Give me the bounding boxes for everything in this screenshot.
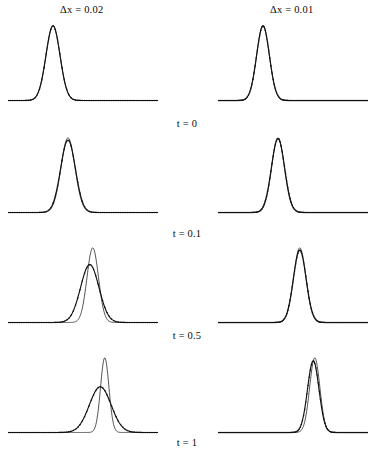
panel-plot-area (218, 350, 368, 440)
panel-plot-area (218, 18, 368, 108)
exact-solution-curve (218, 138, 368, 213)
panel-dx002-t01 (8, 130, 158, 220)
exact-solution-curve (8, 138, 158, 213)
numerical-grid-markers (218, 250, 368, 324)
row-label-t1: t = 1 (150, 437, 224, 448)
numerical-grid-markers (218, 360, 368, 433)
numerical-grid-markers (218, 138, 368, 213)
panel-plot-area (8, 18, 158, 108)
column-header-left: Δx = 0.02 (60, 4, 103, 15)
numerical-solution-curve (8, 265, 158, 323)
numerical-grid-markers (8, 386, 157, 433)
panel-dx002-t0 (8, 18, 158, 108)
numerical-grid-markers (8, 25, 157, 101)
panel-dx001-t1 (218, 350, 368, 440)
column-header-right-label: Δx = 0.01 (270, 4, 313, 15)
exact-solution-curve (218, 358, 368, 433)
numerical-solution-curve (218, 139, 368, 213)
numerical-solution-curve (218, 361, 368, 433)
panel-plot-area (8, 130, 158, 220)
row-label-t0-text: t = 0 (177, 118, 197, 129)
numerical-grid-markers (218, 25, 368, 101)
numerical-grid-markers (8, 264, 157, 323)
numerical-solution-curve (8, 140, 158, 212)
exact-solution-curve (8, 248, 158, 323)
column-header-left-label: Δx = 0.02 (60, 4, 103, 15)
column-header-right: Δx = 0.01 (270, 4, 313, 15)
row-label-t05-text: t = 0.5 (173, 330, 202, 341)
panel-plot-area (8, 240, 158, 330)
row-label-t1-text: t = 1 (177, 437, 197, 448)
exact-solution-curve (8, 358, 158, 433)
numerical-solution-curve (8, 387, 158, 433)
figure-root: Δx = 0.02 Δx = 0.01 t = 0 t = 0.1 t = 0.… (0, 0, 373, 460)
exact-solution-curve (218, 26, 368, 101)
panel-dx002-t1 (8, 350, 158, 440)
row-label-t01-text: t = 0.1 (173, 228, 202, 239)
panel-plot-area (218, 240, 368, 330)
exact-solution-curve (8, 26, 158, 101)
panel-dx001-t0 (218, 18, 368, 108)
panel-plot-area (8, 350, 158, 440)
panel-dx002-t05 (8, 240, 158, 330)
panel-dx001-t01 (218, 130, 368, 220)
row-label-t05: t = 0.5 (150, 330, 224, 341)
panel-dx001-t05 (218, 240, 368, 330)
panel-plot-area (218, 130, 368, 220)
numerical-solution-curve (218, 250, 368, 322)
numerical-solution-curve (8, 26, 158, 101)
row-label-t01: t = 0.1 (150, 228, 224, 239)
row-label-t0: t = 0 (150, 118, 224, 129)
numerical-solution-curve (218, 26, 368, 101)
